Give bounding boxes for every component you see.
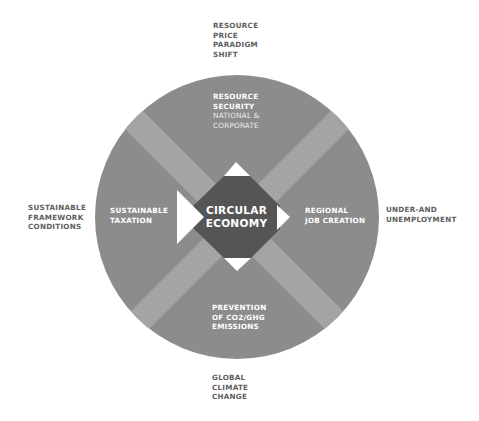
outer-label-global-climate-change: GLOBAL CLIMATE CHANGE [212,373,248,402]
inner-bottom-line-1: PREVENTION [212,303,266,313]
inner-top-sub-1: NATIONAL & [213,111,260,121]
outer-bottom-line-1: GLOBAL [212,373,248,383]
inner-right-line-2: JOB CREATION [305,216,365,226]
inner-top-line-2: SECURITY [213,102,260,112]
outer-label-resource-price-paradigm-shift: RESOURCE PRICE PARADIGM SHIFT [213,21,258,59]
center-line-1: CIRCULAR [193,204,280,217]
inner-left-line-2: TAXATION [110,216,168,226]
outer-top-line-3: PARADIGM [213,40,258,50]
inner-top-line-1: RESOURCE [213,92,260,102]
center-line-2: ECONOMY [193,217,280,230]
inner-label-resource-security: RESOURCE SECURITY NATIONAL & CORPORATE [213,92,260,130]
outer-bottom-line-3: CHANGE [212,392,248,402]
center-label: CIRCULAR ECONOMY [193,204,280,230]
inner-label-regional-job-creation: REGIONAL JOB CREATION [305,206,365,225]
circular-economy-diagram: CIRCULAR ECONOMY RESOURCE SECURITY NATIO… [0,0,479,421]
outer-top-line-1: RESOURCE [213,21,258,31]
inner-right-line-1: REGIONAL [305,206,365,216]
outer-top-line-2: PRICE [213,31,258,41]
outer-right-line-1: UNDER-AND [386,205,457,215]
outer-bottom-line-2: CLIMATE [212,383,248,393]
inner-label-sustainable-taxation: SUSTAINABLE TAXATION [110,206,168,225]
inner-left-line-1: SUSTAINABLE [110,206,168,216]
inner-bottom-line-3: EMISSIONS [212,322,266,332]
inner-bottom-line-2: OF CO2/GHG [212,313,266,323]
inner-top-sub-2: CORPORATE [213,121,260,131]
outer-label-sustainable-framework-conditions: SUSTAINABLE FRAMEWORK CONDITIONS [28,203,86,232]
outer-right-line-2: UNEMPLOYMENT [386,215,457,225]
outer-left-line-1: SUSTAINABLE [28,203,86,213]
outer-left-line-3: CONDITIONS [28,222,86,232]
outer-top-line-4: SHIFT [213,50,258,60]
outer-left-line-2: FRAMEWORK [28,213,86,223]
inner-label-prevention-emissions: PREVENTION OF CO2/GHG EMISSIONS [212,303,266,332]
outer-label-under-and-unemployment: UNDER-AND UNEMPLOYMENT [386,205,457,224]
